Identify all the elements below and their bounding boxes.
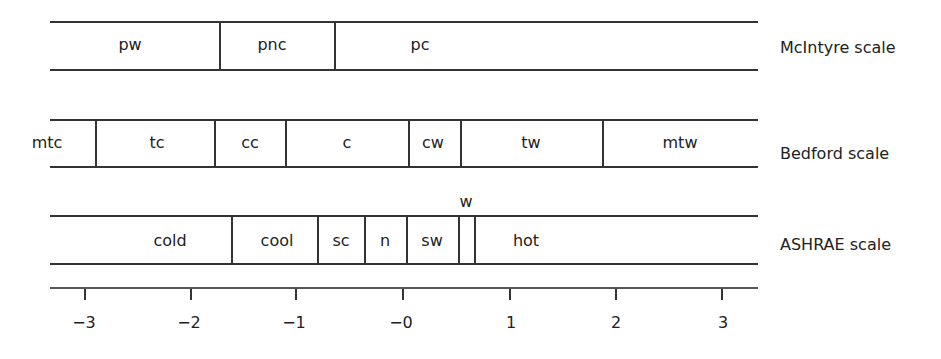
- bedford-divider: [214, 121, 216, 166]
- axis-tick-label: 1: [506, 313, 516, 332]
- bedford-bottom-line: [50, 166, 758, 168]
- segment-tw: tw: [521, 133, 540, 152]
- axis-tick: [84, 289, 86, 300]
- axis-tick: [295, 289, 297, 300]
- axis-tick-label: −3: [72, 313, 96, 332]
- segment-cold: cold: [153, 231, 186, 250]
- axis-tick-label: −2: [177, 313, 201, 332]
- segment-sw: sw: [421, 231, 442, 250]
- bedford-top-line: [50, 119, 758, 121]
- segment-n: n: [380, 231, 390, 250]
- ashrae-divider: [317, 217, 319, 263]
- axis-tick: [190, 289, 192, 300]
- ashrae-divider: [231, 217, 233, 263]
- segment-hot: hot: [513, 231, 539, 250]
- segment-mtw: mtw: [663, 133, 698, 152]
- axis-line: [50, 287, 758, 289]
- axis-tick: [509, 289, 511, 300]
- axis-tick: [615, 289, 617, 300]
- ashrae-divider: [474, 217, 476, 263]
- mcintyre-divider: [219, 23, 221, 69]
- axis-tick: [402, 289, 404, 300]
- bedford-divider: [602, 121, 604, 166]
- segment-pw: pw: [118, 35, 141, 54]
- ashrae-divider: [406, 217, 408, 263]
- mcintyre-divider: [334, 23, 336, 69]
- bedford-divider: [460, 121, 462, 166]
- segment-cw: cw: [422, 133, 444, 152]
- axis-tick-label: −1: [282, 313, 306, 332]
- bedford-divider: [285, 121, 287, 166]
- ashrae-top-line: [50, 215, 758, 217]
- scale-label-bedford: Bedford scale: [780, 144, 889, 163]
- segment-pc: pc: [411, 35, 430, 54]
- segment-pnc: pnc: [257, 35, 286, 54]
- segment-cc: cc: [241, 133, 259, 152]
- segment-sc: sc: [332, 231, 349, 250]
- scale-label-ashrae: ASHRAE scale: [780, 235, 891, 254]
- bedford-divider: [408, 121, 410, 166]
- bedford-divider: [95, 121, 97, 166]
- ashrae-bottom-line: [50, 263, 758, 265]
- scale-label-mcintyre: McIntyre scale: [780, 38, 896, 57]
- mcintyre-top-line: [50, 21, 758, 23]
- mcintyre-bottom-line: [50, 69, 758, 71]
- segment-cool: cool: [261, 231, 294, 250]
- ashrae-divider: [458, 217, 460, 263]
- axis-tick: [721, 289, 723, 300]
- segment-mtc: mtc: [32, 133, 63, 152]
- axis-tick-label: 2: [611, 313, 621, 332]
- ashrae-divider: [364, 217, 366, 263]
- segment-tc: tc: [149, 133, 164, 152]
- axis-tick-label: −0: [389, 313, 413, 332]
- axis-tick-label: 3: [718, 313, 728, 332]
- segment-c: c: [343, 133, 352, 152]
- segment-w: w: [459, 192, 472, 211]
